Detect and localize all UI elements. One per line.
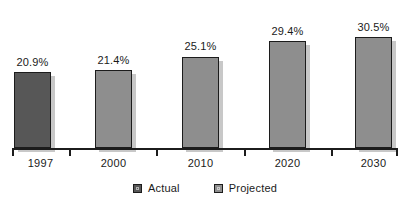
bar-value-label: 29.4% [257, 25, 318, 37]
x-axis-label-1997: 1997 [12, 157, 69, 169]
x-axis-label-2020: 2020 [259, 157, 316, 169]
plot-area: 20.9% 21.4% 25.1% 29.4% [0, 8, 410, 148]
bar-2030[interactable] [355, 37, 392, 148]
bar-group-2010: 25.1% [182, 24, 219, 148]
bar-fill [95, 70, 132, 148]
bar-value-label: 30.5% [343, 21, 404, 33]
x-axis-tick [12, 150, 14, 156]
x-axis-tick [69, 150, 71, 156]
bar-1997[interactable] [14, 72, 51, 148]
x-axis-tick [244, 150, 246, 156]
x-axis-label-2030: 2030 [345, 157, 402, 169]
legend-label: Projected [229, 182, 277, 194]
bar-fill [355, 37, 392, 148]
x-axis-label-2010: 2010 [172, 157, 229, 169]
legend: Actual Projected [0, 182, 410, 194]
bar-group-2030: 30.5% [355, 24, 392, 148]
bar-group-2000: 21.4% [95, 24, 132, 148]
legend-label: Actual [148, 182, 180, 194]
x-axis-tick [156, 150, 158, 156]
x-axis-tick [396, 150, 398, 156]
bar-fill [14, 72, 51, 148]
bar-2010[interactable] [182, 57, 219, 149]
legend-swatch-icon [214, 184, 223, 193]
bar-2020[interactable] [269, 41, 306, 148]
bar-value-label: 21.4% [83, 54, 144, 66]
legend-item-actual[interactable]: Actual [133, 182, 180, 194]
bar-group-2020: 29.4% [269, 24, 306, 148]
bar-fill [269, 41, 306, 148]
legend-item-projected[interactable]: Projected [214, 182, 277, 194]
legend-swatch-icon [133, 184, 142, 193]
bar-fill [182, 57, 219, 149]
bar-group-1997: 20.9% [14, 24, 51, 148]
bar-2000[interactable] [95, 70, 132, 148]
x-axis-tick [331, 150, 333, 156]
bar-chart: 20.9% 21.4% 25.1% 29.4% [0, 0, 410, 205]
bar-value-label: 20.9% [2, 56, 63, 68]
x-axis-label-2000: 2000 [85, 157, 142, 169]
bar-value-label: 25.1% [170, 40, 231, 52]
